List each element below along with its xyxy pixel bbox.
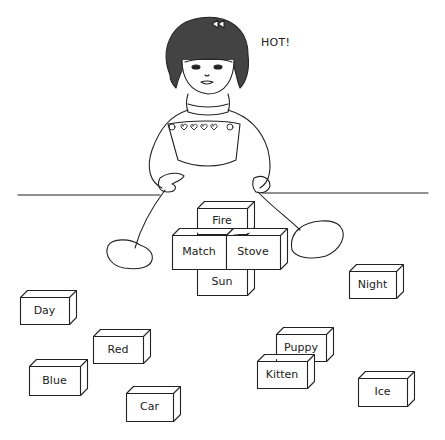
right-arm <box>228 110 270 188</box>
left-hand <box>158 173 184 192</box>
right-hand <box>253 176 270 192</box>
word-block-day[interactable]: Day <box>20 290 76 324</box>
face <box>182 60 234 94</box>
block-label: Car <box>126 400 173 413</box>
block-label: Kitten <box>257 368 307 381</box>
block-label: Sun <box>197 275 247 288</box>
block-label: Puppy <box>276 341 326 354</box>
right-shoe <box>291 221 343 258</box>
word-block-red[interactable]: Red <box>93 329 150 363</box>
left-shoe <box>107 240 152 269</box>
word-block-night[interactable]: Night <box>349 264 403 298</box>
word-block-kitten[interactable]: Kitten <box>257 354 314 388</box>
right-eye <box>214 65 222 69</box>
block-label: Night <box>349 278 396 291</box>
block-label: Stove <box>226 245 280 258</box>
hearts-row <box>169 124 233 130</box>
block-label: Match <box>172 245 226 258</box>
word-block-ice[interactable]: Ice <box>358 371 414 406</box>
word-block-blue[interactable]: Blue <box>29 359 87 395</box>
block-label: Fire <box>197 214 247 227</box>
block-label: Red <box>93 343 143 356</box>
block-label: Ice <box>358 385 407 398</box>
speech-text: HOT! <box>261 36 290 49</box>
left-eye <box>192 65 200 69</box>
overall-bib <box>168 121 240 166</box>
word-block-stove[interactable]: Stove <box>226 228 287 269</box>
word-block-match[interactable]: Match <box>172 228 233 269</box>
block-label: Blue <box>29 374 80 387</box>
word-block-car[interactable]: Car <box>126 386 180 421</box>
block-label: Day <box>20 304 69 317</box>
